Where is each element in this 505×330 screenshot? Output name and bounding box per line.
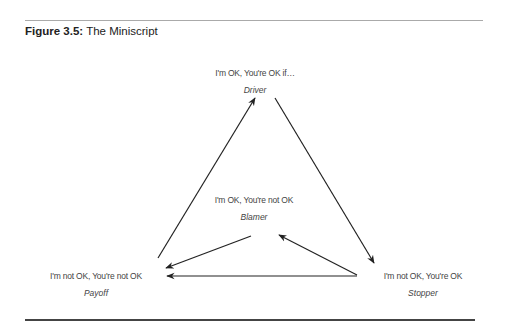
payoff-state: I'm not OK, You're not OK xyxy=(50,271,142,281)
stopper-role: Stopper xyxy=(384,288,462,298)
node-driver: I'm OK, You're OK if… Driver xyxy=(215,68,294,95)
driver-state: I'm OK, You're OK if… xyxy=(215,68,294,78)
edge-payoff-to-driver xyxy=(158,98,255,258)
blamer-state: I'm OK, You're not OK xyxy=(215,195,293,205)
node-blamer: I'm OK, You're not OK Blamer xyxy=(215,195,293,222)
edge-driver-to-stopper xyxy=(275,98,374,263)
node-stopper: I'm not OK, You're OK Stopper xyxy=(384,271,462,298)
bottom-rule xyxy=(25,319,475,321)
stopper-state: I'm not OK, You're OK xyxy=(384,271,462,281)
edge-stopper-to-blamer xyxy=(279,235,357,275)
blamer-role: Blamer xyxy=(215,212,293,222)
edge-blamer-to-payoff xyxy=(166,236,251,268)
driver-role: Driver xyxy=(215,85,294,95)
payoff-role: Payoff xyxy=(50,288,142,298)
node-payoff: I'm not OK, You're not OK Payoff xyxy=(50,271,142,298)
